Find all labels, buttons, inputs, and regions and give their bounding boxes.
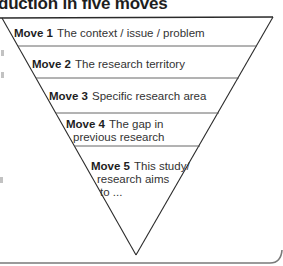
- move-3-text: Specific research area: [92, 90, 206, 102]
- move-2-number: Move 2: [32, 58, 71, 70]
- move-2-label: Move 2The research territory: [32, 58, 185, 71]
- move-1-number: Move 1: [14, 27, 53, 39]
- triangle-top-edge: [0, 17, 273, 18]
- cropped-text-fragment: [1, 72, 4, 78]
- move-4-text-line-1: The gap in: [109, 118, 163, 130]
- frame-bottom-border: [0, 250, 282, 263]
- cropped-text-fragment: [1, 50, 4, 56]
- move-3-label: Move 3Specific research area: [49, 90, 206, 103]
- move-1-text: The context / issue / problem: [57, 27, 205, 39]
- move-2-text: The research territory: [75, 58, 185, 70]
- move-5-number: Move 5: [91, 160, 130, 172]
- cropped-text-fragment: [0, 177, 3, 183]
- move-5-text-line-1: This study/: [134, 160, 190, 172]
- move-3-number: Move 3: [49, 90, 88, 102]
- move-5-text-line-2: research aims: [91, 173, 190, 186]
- move-4-label: Move 4The gap in previous research: [66, 118, 164, 144]
- move-1-label: Move 1The context / issue / problem: [14, 27, 205, 40]
- move-5-label: Move 5This study/ research aims to ...: [91, 160, 190, 199]
- move-4-text-line-2: previous research: [66, 131, 164, 144]
- move-4-number: Move 4: [66, 118, 105, 130]
- move-5-text-line-3: to ...: [91, 186, 190, 199]
